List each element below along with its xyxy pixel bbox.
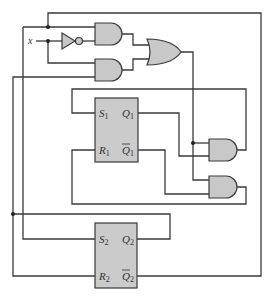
wire-and2-lower-input: [13, 77, 95, 276]
wire-or-output: [180, 52, 209, 180]
and-gate-1: [95, 23, 122, 45]
sr-flipflop-1: S1 R1 Q1 Q1: [95, 98, 138, 162]
circuit-diagram: x S1 R1 Q1 Q1 S2 R2 Q2 Q2: [0, 0, 268, 297]
not-gate-body: [62, 33, 75, 49]
junction-dot: [11, 212, 15, 216]
and-gate-2: [95, 59, 122, 81]
and-gate-3: [209, 139, 237, 161]
wire-and1-to-or: [122, 34, 150, 45]
wire-s2-input: [23, 27, 95, 239]
input-x-label: x: [27, 35, 33, 46]
wire-and2-to-or: [122, 59, 150, 70]
wire-x-to-and2: [48, 41, 95, 63]
junction-dot: [46, 25, 50, 29]
junction-dot: [46, 39, 50, 43]
not-gate: [62, 33, 83, 49]
junction-dot: [191, 141, 195, 145]
and-gate-4: [209, 176, 237, 198]
not-gate-bubble: [76, 38, 83, 45]
or-gate: [147, 39, 181, 65]
sr-flipflop-2: S2 R2 Q2 Q2: [95, 223, 137, 288]
wire-q2-feedback: [13, 214, 170, 239]
